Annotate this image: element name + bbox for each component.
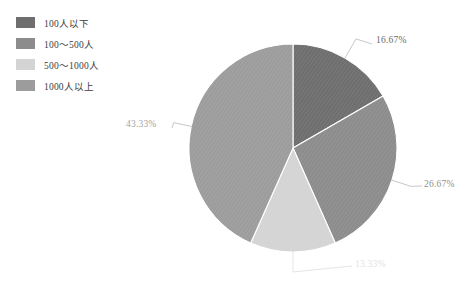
slice-value-label-3: 43.33% <box>126 119 157 129</box>
slice-leader-line <box>293 251 352 272</box>
slice-leader-line <box>345 39 372 59</box>
slice-value-label-1: 26.67% <box>424 179 455 189</box>
pie-chart-figure: 100人以下 100～500人 500～1000人 1000人以上 16.67%… <box>0 0 468 288</box>
slice-value-label-2: 13.33% <box>355 259 386 269</box>
slice-leader-line <box>172 123 192 128</box>
slice-value-label-0: 16.67% <box>376 35 407 45</box>
slice-leader-line <box>391 180 422 186</box>
